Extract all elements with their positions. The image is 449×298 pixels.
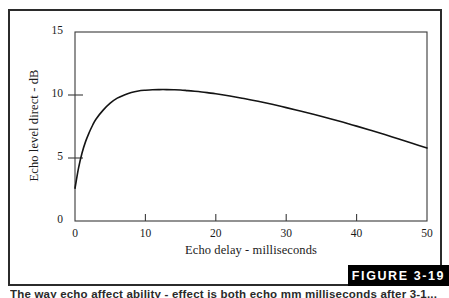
figure-number-badge: FIGURE 3-19 [348, 265, 449, 286]
plot-area-border [75, 32, 427, 221]
y-tick-label: 0 [37, 213, 63, 225]
figure-container: Echo level direct - dB Echo delay - mill… [0, 0, 449, 298]
x-tick-label: 0 [60, 227, 90, 239]
x-axis-label: Echo delay - milliseconds [75, 243, 427, 258]
x-tick-label: 30 [271, 227, 301, 239]
x-tick-label: 10 [130, 227, 160, 239]
figure-caption: The way echo affect ability - effect is … [10, 288, 440, 298]
y-tick-label: 10 [37, 87, 63, 99]
y-axis-label: Echo level direct - dB [27, 46, 42, 206]
y-tick-label: 5 [37, 150, 63, 162]
y-tick-label: 15 [37, 24, 63, 36]
x-tick-label: 20 [201, 227, 231, 239]
data-series-line [75, 90, 427, 189]
plot-axes [75, 32, 427, 221]
x-tick-label: 50 [412, 227, 442, 239]
x-tick-label: 40 [342, 227, 372, 239]
x-tick-marks [75, 214, 427, 221]
